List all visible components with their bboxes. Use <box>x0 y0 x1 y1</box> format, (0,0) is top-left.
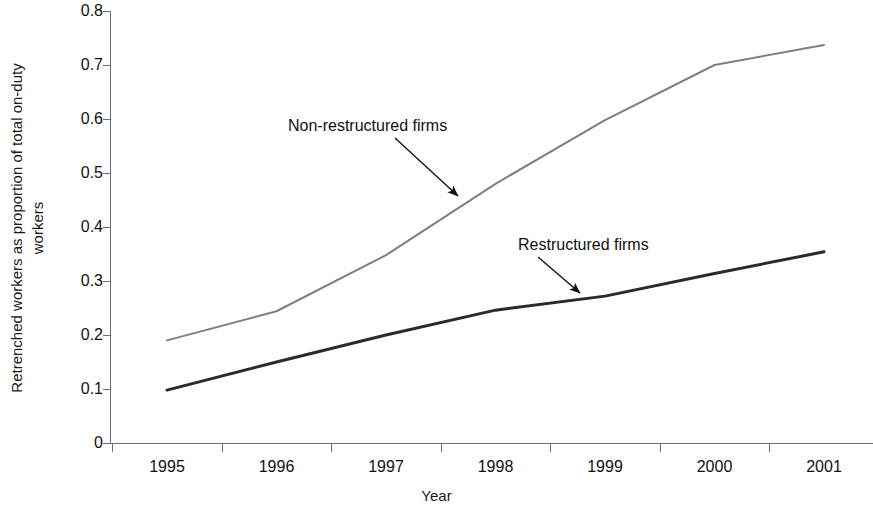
x-axis-tick-mark <box>550 444 551 452</box>
annotation-restructured-firms: Restructured firms <box>518 236 649 254</box>
x-axis-tick-mark <box>112 444 113 452</box>
y-axis-tick-mark <box>103 443 111 444</box>
x-axis-tick-label: 2001 <box>779 458 869 476</box>
x-axis-title: Year <box>0 487 873 504</box>
annotation-non-restructured-firms: Non-restructured firms <box>288 117 447 135</box>
y-axis-tick-label: 0.7 <box>57 56 103 74</box>
series-line-non-restructured-firms <box>167 45 824 340</box>
y-axis-tick-label: 0.6 <box>57 110 103 128</box>
y-axis-tick-label: 0.3 <box>57 272 103 290</box>
x-axis-tick-mark <box>222 444 223 452</box>
x-axis-tick-mark <box>660 444 661 452</box>
y-axis-title-line-1: Retrenched workers as proportion of tota… <box>6 63 27 392</box>
plot-area <box>110 11 873 443</box>
y-axis-tick-labels: 00.10.20.30.40.50.60.70.8 <box>55 0 103 455</box>
y-axis-tick-label: 0.1 <box>57 380 103 398</box>
x-axis-line <box>103 443 873 444</box>
x-axis-tick-label: 1995 <box>122 458 212 476</box>
x-axis-tick-mark <box>769 444 770 452</box>
y-axis-title: Retrenched workers as proportion of tota… <box>0 0 54 455</box>
y-axis-tick-label: 0.4 <box>57 218 103 236</box>
x-axis-tick-label: 1999 <box>560 458 650 476</box>
x-axis-tick-label: 2000 <box>670 458 760 476</box>
y-axis-tick-label: 0.2 <box>57 326 103 344</box>
series-svg <box>110 11 873 443</box>
x-axis-tick-label: 1996 <box>232 458 322 476</box>
x-axis-tick-label: 1998 <box>451 458 541 476</box>
y-axis-title-line-2: workers <box>27 63 48 392</box>
y-axis-tick-label: 0.8 <box>57 2 103 20</box>
series-line-restructured-firms <box>167 252 824 390</box>
y-axis-tick-label: 0.5 <box>57 164 103 182</box>
x-axis-tick-mark <box>331 444 332 452</box>
y-axis-tick-label: 0 <box>57 434 103 452</box>
chart-figure: Retrenched workers as proportion of tota… <box>0 0 873 515</box>
x-axis-tick-label: 1997 <box>341 458 431 476</box>
x-axis-tick-mark <box>441 444 442 452</box>
